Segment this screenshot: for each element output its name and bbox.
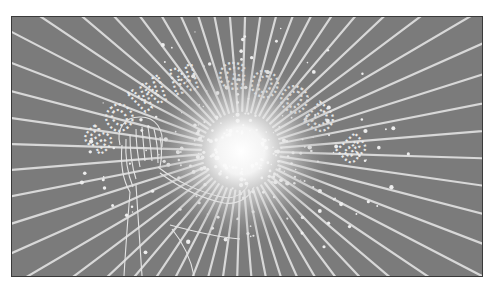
splatter-dot [186,240,190,244]
splatter-dot [385,128,387,130]
splatter-dot [280,28,282,30]
splatter-dot [275,40,278,43]
splatter-dot [301,232,304,235]
splatter-dot [239,49,243,53]
splatter-dot [131,206,134,209]
splatter-dot [241,38,245,42]
splatter-dot [407,152,410,155]
splatter-dot [327,49,330,52]
splatter-dot [164,61,166,63]
splatter-dot [103,186,107,190]
splatter-dot [327,221,330,224]
splatter-dot [367,200,370,203]
splatter-dot [161,43,165,47]
splatter-dot [151,190,154,193]
splatter-dot [376,205,378,207]
splatter-dot [103,176,105,178]
artwork-frame: SOWN GOOD BAY [11,16,483,277]
splatter-dot [194,31,195,32]
splatter-dot [322,245,325,248]
splatter-dot [333,198,335,200]
splatter-dot [89,150,92,153]
splatter-dot [348,225,351,228]
splatter-dot [83,171,87,175]
splatter-dot [312,70,316,74]
splatter-dot [144,250,148,254]
splatter-dot [361,73,363,75]
splatter-dot [129,163,131,165]
burst-illustration: SOWN GOOD BAY [12,17,482,276]
light-burst-core [146,56,336,246]
splatter-dot [243,35,246,38]
splatter-dot [391,126,395,130]
splatter-dot [318,209,322,213]
splatter-dot [171,47,173,49]
splatter-dot [103,102,104,103]
splatter-dot [366,159,367,160]
splatter-dot [363,129,367,133]
splatter-dot [132,211,134,213]
splatter-dot [389,185,393,189]
splatter-dot [355,213,357,215]
splatter-dot [102,178,105,181]
splatter-dot [307,62,309,64]
splatter-dot [80,180,84,184]
splatter-dot [377,146,381,150]
splatter-dot [339,202,343,206]
splatter-dot [111,204,114,207]
splatter-dot [361,118,364,121]
